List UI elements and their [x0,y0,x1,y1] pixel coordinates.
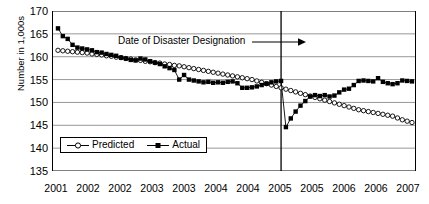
y-axis-tick-label: 170 [30,6,48,17]
y-axis-tick-label: 145 [30,120,48,131]
annotation-disaster-designation: Date of Disaster Designation [118,35,308,46]
chart-legend: Predicted Actual [60,137,207,153]
x-axis-tick-label: 2004 [204,182,227,194]
x-axis-tick-label: 2002 [108,182,131,194]
x-axis-tick-label: 2001 [44,182,67,194]
annotation-arrow-icon [252,37,308,47]
x-axis-tick-label: 2006 [364,182,387,194]
y-axis-tick-label: 165 [30,28,48,39]
legend-label-predicted: Predicted [92,140,134,150]
x-axis-tick-label: 2005 [300,182,323,194]
y-axis-tick-label: 135 [30,166,48,177]
x-axis-tick-label: 2005 [268,182,291,194]
y-axis-tick-label: 150 [30,97,48,108]
x-axis-tick-label: 2002 [76,182,99,194]
y-axis-tick-label: 160 [30,51,48,62]
x-axis-tick-label: 2003 [172,182,195,194]
legend-marker-filled-square [147,141,169,150]
x-axis-tick-label: 2004 [236,182,259,194]
legend-marker-open-circle [67,141,89,150]
y-axis-tick-label: 140 [30,143,48,154]
legend-item-actual: Actual [147,140,200,150]
x-axis-tick-label: 2006 [332,182,355,194]
x-axis-tick-labels: 2001200220022003200320042004200520052006… [52,182,416,200]
chart-container: Number in 1,000s 13514014515015516016517… [0,0,429,204]
y-axis-tick-labels: 135140145150155160165170 [10,0,48,204]
legend-label-actual: Actual [172,140,200,150]
x-axis-tick-label: 2003 [140,182,163,194]
annotation-label: Date of Disaster Designation [118,35,245,46]
x-axis-tick-label: 2007 [396,182,419,194]
legend-item-predicted: Predicted [67,140,134,150]
y-axis-tick-label: 155 [30,74,48,85]
